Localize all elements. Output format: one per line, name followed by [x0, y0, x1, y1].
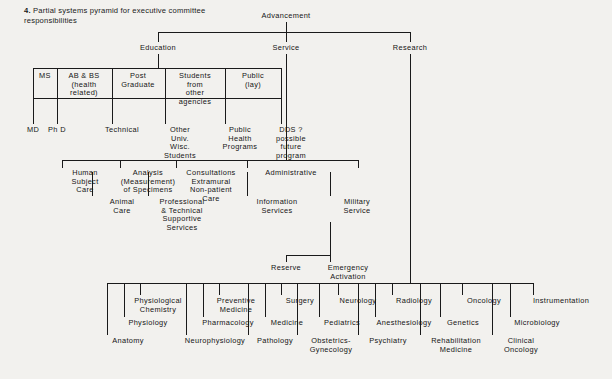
node-dds-possible-future-program[interactable]: DDS ? possible future program	[276, 126, 306, 160]
node-military-service[interactable]: Military Service	[343, 198, 370, 215]
node-pharmacology[interactable]: Pharmacology	[202, 319, 253, 328]
node-ms[interactable]: MS	[39, 72, 51, 81]
node-obstetrics-gynecology[interactable]: Obstetrics- Gynecology	[310, 337, 353, 354]
figure-number: 4.	[24, 6, 31, 15]
node-md[interactable]: MD	[27, 126, 39, 135]
node-administrative[interactable]: Administrative	[265, 169, 316, 178]
node-public-lay[interactable]: Public (lay)	[242, 72, 264, 89]
node-public-health-programs[interactable]: Public Health Programs	[223, 126, 258, 152]
node-students-other-agencies[interactable]: Students from other agencies	[179, 72, 211, 106]
node-service[interactable]: Service	[272, 44, 299, 53]
node-reserve[interactable]: Reserve	[271, 264, 301, 273]
node-human-subject-care[interactable]: Human Subject Care	[71, 169, 98, 195]
node-anatomy[interactable]: Anatomy	[112, 337, 144, 346]
node-advancement[interactable]: Advancement	[261, 12, 310, 21]
node-neurology[interactable]: Neurology	[340, 297, 377, 306]
node-instrumentation[interactable]: Instrumentation	[533, 297, 589, 306]
node-surgery[interactable]: Surgery	[286, 297, 314, 306]
node-technical[interactable]: Technical	[105, 126, 139, 135]
node-pathology[interactable]: Pathology	[257, 337, 293, 346]
node-preventive-medicine[interactable]: Preventive Medicine	[217, 297, 255, 314]
figure-caption: 4. Partial systems pyramid for executive…	[24, 6, 254, 25]
node-oncology[interactable]: Oncology	[467, 297, 501, 306]
node-analysis-measurement-specimens[interactable]: Analysis (Measurement) of Specimens	[121, 169, 176, 195]
node-radiology[interactable]: Radiology	[396, 297, 432, 306]
node-education[interactable]: Education	[140, 44, 176, 53]
org-chart-figure: 4. Partial systems pyramid for executive…	[0, 0, 612, 379]
node-pediatrics[interactable]: Pediatrics	[324, 319, 360, 328]
figure-caption-text: Partial systems pyramid for executive co…	[24, 6, 205, 25]
node-psychiatry[interactable]: Psychiatry	[369, 337, 407, 346]
node-genetics[interactable]: Genetics	[447, 319, 479, 328]
node-emergency-activation[interactable]: Emergency Activation	[328, 264, 369, 281]
node-information-services[interactable]: Information Services	[257, 198, 298, 215]
node-phd[interactable]: Ph D	[48, 126, 66, 135]
node-physiological-chemistry[interactable]: Physiological Chemistry	[134, 297, 182, 314]
node-animal-care[interactable]: Animal Care	[110, 198, 135, 215]
node-neurophysiology[interactable]: Neurophysiology	[185, 337, 245, 346]
node-rehabilitation-medicine[interactable]: Rehabilitation Medicine	[431, 337, 481, 354]
node-ab-bs[interactable]: AB & BS (health related)	[68, 72, 99, 98]
node-post-graduate[interactable]: Post Graduate	[121, 72, 155, 89]
node-other-univ-wisc-students[interactable]: Other Univ. Wisc. Students	[164, 126, 196, 160]
node-microbiology[interactable]: Microbiology	[514, 319, 560, 328]
node-anesthesiology[interactable]: Anesthesiology	[376, 319, 431, 328]
node-physiology[interactable]: Physiology	[128, 319, 167, 328]
node-medicine[interactable]: Medicine	[271, 319, 303, 328]
node-research[interactable]: Research	[393, 44, 427, 53]
node-professional-technical-supportive-services[interactable]: Professional & Technical Supportive Serv…	[160, 198, 205, 232]
node-clinical-oncology[interactable]: Clinical Oncology	[504, 337, 538, 354]
